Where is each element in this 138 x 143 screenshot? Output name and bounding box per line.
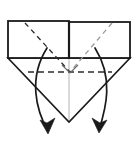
origami-figure-svg — [0, 0, 138, 143]
top-right-panel — [69, 22, 130, 58]
origami-diagram — [0, 0, 138, 143]
top-left-panel — [8, 21, 69, 58]
